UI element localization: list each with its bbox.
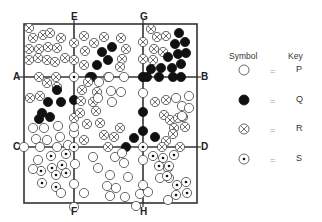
dotted-circle-icon: [69, 142, 78, 151]
open-circle-icon: [107, 97, 116, 106]
crossed-circle-icon: [34, 72, 43, 81]
dotted-circle-icon: [37, 178, 46, 187]
label-d: D: [201, 142, 208, 152]
filled-circle-icon: [97, 47, 106, 56]
crossed-circle-icon: [24, 44, 33, 53]
open-circle-icon: [39, 123, 48, 132]
open-circle-icon: [184, 103, 193, 112]
crossed-circle-icon: [82, 119, 91, 128]
crossed-circle-icon: [79, 60, 88, 69]
filled-circle-icon: [52, 85, 61, 94]
filled-circle-icon: [150, 132, 159, 141]
crossed-circle-icon: [175, 142, 184, 151]
open-circle-icon: [163, 195, 172, 204]
legend-key-q: Q: [296, 94, 303, 104]
crossed-circle-icon: [150, 97, 159, 106]
crossed-circle-icon: [83, 77, 92, 86]
crossed-circle-icon: [149, 44, 158, 53]
filled-circle-icon: [163, 52, 172, 61]
open-circle-icon: [56, 188, 65, 197]
dotted-circle-icon: [162, 171, 171, 180]
open-circle-icon: [102, 181, 111, 190]
open-circle-icon: [94, 77, 103, 86]
crossed-circle-icon: [148, 55, 157, 64]
legend-key-r: R: [296, 123, 303, 133]
crossed-circle-icon: [25, 93, 34, 102]
legend-symbols: [239, 65, 249, 164]
crossed-circle-icon: [89, 38, 98, 47]
crossed-circle-icon: [52, 43, 61, 52]
open-circle-icon: [79, 188, 88, 197]
open-circle-icon: [69, 122, 78, 131]
legend-equals-r: =: [270, 125, 275, 135]
label-f: F: [71, 207, 77, 217]
open-circle-icon: [69, 179, 78, 188]
open-circle-icon: [19, 142, 28, 151]
filled-circle-icon: [142, 72, 151, 81]
crossed-circle-icon: [168, 129, 177, 138]
open-circle-icon: [93, 163, 102, 172]
open-circle-icon: [33, 155, 42, 164]
crossed-circle-icon: [69, 55, 78, 64]
legend-key-s: S: [296, 153, 302, 163]
dotted-circle-icon: [182, 188, 191, 197]
open-circle-icon: [116, 87, 125, 96]
open-circle-icon: [28, 123, 37, 132]
crossed-circle-icon: [51, 72, 60, 81]
crossed-circle-icon: [24, 55, 33, 64]
filled-circle-icon: [103, 55, 112, 64]
crossed-circle-icon: [43, 42, 52, 51]
filled-circle-icon: [170, 39, 179, 48]
crossed-circle-icon: [33, 53, 42, 62]
filled-circle-icon: [176, 59, 185, 68]
open-circle-icon: [119, 158, 128, 167]
dotted-circle-icon: [172, 180, 181, 189]
open-circle-icon: [177, 111, 186, 120]
open-circle-icon: [28, 164, 37, 173]
legend-key-p: P: [296, 64, 302, 74]
label-b: B: [201, 72, 208, 82]
dotted-circle-icon: [61, 168, 70, 177]
dotted-circle-icon: [154, 161, 163, 170]
crossed-circle-icon: [115, 123, 124, 132]
open-circle-icon: [88, 152, 97, 161]
open-circle-icon: [104, 72, 113, 81]
crossed-circle-icon: [161, 95, 170, 104]
dotted-circle-icon: [51, 170, 60, 179]
crossed-circle-icon: [115, 62, 124, 71]
open-circle-icon: [70, 159, 79, 168]
label-c: C: [13, 142, 20, 152]
crossed-circle-icon: [79, 135, 88, 144]
legend-symbol-header: Symbol: [229, 51, 257, 61]
crossed-circle-icon: [56, 33, 65, 42]
open-circle-icon: [138, 180, 147, 189]
crossed-circle-icon: [60, 53, 69, 62]
legend-equals-q: =: [270, 96, 275, 106]
crossed-circle-icon: [146, 24, 155, 33]
crossed-circle-icon: [28, 33, 37, 42]
crossed-circle-icon: [121, 44, 130, 53]
open-circle-icon: [53, 121, 62, 130]
filled-circle-icon: [156, 63, 165, 72]
filled-circle-icon: [34, 114, 43, 123]
open-circle-icon: [52, 142, 61, 151]
filled-circle-icon: [180, 37, 189, 46]
dotted-circle-icon: [181, 177, 190, 186]
crossed-circle-icon: [161, 31, 170, 40]
crossed-circle-icon: [42, 78, 51, 87]
dotted-circle-icon: [164, 161, 173, 170]
crossed-circle-icon: [116, 33, 125, 42]
filled-circle-icon: [181, 48, 190, 57]
filled-circle-icon: [107, 42, 116, 51]
filled-circle-icon: [176, 72, 185, 81]
crossed-circle-icon: [239, 124, 249, 134]
label-e: E: [71, 12, 78, 22]
open-circle-icon: [138, 155, 147, 164]
symbols-layer: [19, 23, 193, 211]
filled-circle-icon: [43, 97, 52, 106]
crossed-circle-icon: [76, 96, 85, 105]
open-circle-icon: [106, 86, 115, 95]
label-a: A: [13, 72, 20, 82]
filled-circle-icon: [167, 63, 176, 72]
crossed-circle-icon: [180, 122, 189, 131]
